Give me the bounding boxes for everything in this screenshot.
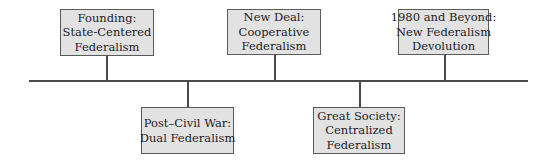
stem-founding (106, 56, 108, 81)
era-box-1980-and-beyond: 1980 and Beyond: New Federalism Devoluti… (398, 9, 489, 55)
era-label-line: New Deal: (244, 10, 305, 25)
era-label-line: Federalism (242, 39, 307, 54)
era-box-new-deal: New Deal: Cooperative Federalism (227, 9, 321, 55)
era-box-great-society: Great Society: Centralized Federalism (313, 107, 405, 154)
era-label-line: Centralized (325, 123, 393, 138)
era-label-line: New Federalism (396, 25, 491, 40)
stem-new-deal (274, 55, 276, 81)
era-label-line: Federalism (75, 40, 140, 55)
stem-post-civil-war (187, 81, 189, 107)
era-box-founding: Founding: State-Centered Federalism (60, 9, 154, 56)
era-label-line: Dual Federalism (140, 131, 236, 146)
era-label-line: Post–Civil War: (144, 116, 232, 131)
era-label-line: Founding: (78, 11, 137, 26)
era-label-line: State-Centered (63, 25, 152, 40)
stem-1980-and-beyond (444, 55, 446, 81)
era-label-line: Great Society: (317, 109, 400, 124)
era-box-post-civil-war: Post–Civil War: Dual Federalism (141, 107, 234, 154)
timeline-axis (29, 80, 528, 82)
era-label-line: 1980 and Beyond: (391, 10, 497, 25)
stem-great-society (359, 81, 361, 107)
era-label-line: Federalism (327, 138, 392, 153)
era-label-line: Devolution (412, 39, 475, 54)
era-label-line: Cooperative (239, 25, 310, 40)
